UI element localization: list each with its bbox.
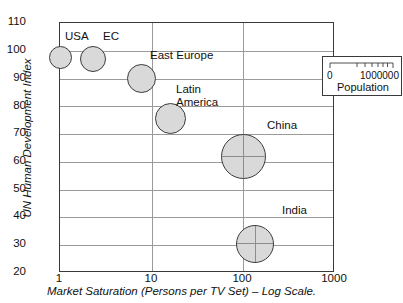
y-tick-label: 20: [0, 266, 26, 278]
y-tick-label: 30: [0, 238, 26, 250]
y-tick-label: 60: [0, 155, 26, 167]
bubble-label-east-europe: East Europe: [150, 49, 213, 62]
gridline-horizontal: [60, 190, 333, 191]
bubble-label-china: China: [267, 119, 297, 132]
legend-title: Population: [323, 81, 403, 94]
y-tick-label: 40: [0, 210, 26, 222]
bubble-label-india: India: [282, 204, 307, 217]
x-tick-label: 100: [222, 272, 262, 284]
bubble-usa[interactable]: [49, 46, 72, 69]
y-tick-label: 70: [0, 127, 26, 139]
bubble-china[interactable]: [221, 134, 266, 179]
y-tick-label: 50: [0, 183, 26, 195]
gridline-horizontal: [60, 162, 333, 163]
legend-population: 0 1000000 Population: [322, 56, 402, 96]
gridline-horizontal: [60, 79, 333, 80]
bubble-label-latin-america: Latin America: [176, 83, 218, 108]
bubble-ec[interactable]: [80, 46, 106, 72]
gridline-horizontal: [60, 217, 333, 218]
x-tick-label: 10: [131, 272, 171, 284]
plot-area: USA EC East Europe Latin America China I…: [59, 22, 334, 272]
bubble-india[interactable]: [236, 225, 274, 263]
gridline-horizontal: [60, 134, 333, 135]
y-tick-label: 80: [0, 100, 26, 112]
x-axis-title: Market Saturation (Persons per TV Set) –…: [0, 285, 363, 297]
y-tick-label: 90: [0, 72, 26, 84]
y-tick-label: 110: [0, 16, 26, 28]
legend-scale-ruler: [329, 62, 395, 69]
y-tick-label: 100: [0, 44, 26, 56]
x-tick-label: 1000: [314, 272, 354, 284]
x-tick-label: 1: [39, 272, 79, 284]
bubble-label-ec: EC: [103, 30, 119, 43]
gridline-horizontal: [60, 245, 333, 246]
bubble-label-usa: USA: [65, 30, 89, 43]
